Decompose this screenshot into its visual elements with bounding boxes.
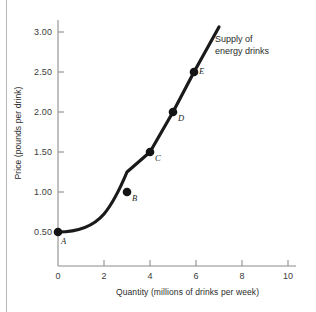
y-tick-label-0: 0.50 <box>12 227 52 237</box>
point-label-b: B <box>132 193 137 203</box>
point-label-e: E <box>199 66 204 76</box>
x-axis-title: Quantity (millions of drinks per week) <box>116 287 259 297</box>
y-axis-title: Price (pounds per drink) <box>13 68 23 198</box>
data-point-b <box>123 188 132 197</box>
x-axis-ticks <box>104 260 288 266</box>
x-tick-label-4: 8 <box>232 271 252 281</box>
point-label-d: D <box>178 113 184 123</box>
supply-curve-annotation: Supply of energy drinks <box>215 33 269 57</box>
supply-annotation-line-2: energy drinks <box>215 45 269 57</box>
y-axis-ticks <box>58 32 64 232</box>
x-tick-label-5: 10 <box>278 271 298 281</box>
x-tick-label-3: 6 <box>186 271 206 281</box>
data-point-c <box>146 148 155 157</box>
supply-curve-figure: 0.50 1.00 1.50 2.00 2.50 3.00 0 2 4 6 8 … <box>0 0 316 312</box>
point-label-a: A <box>61 236 66 246</box>
x-tick-label-1: 2 <box>94 271 114 281</box>
x-tick-label-0: 0 <box>48 271 68 281</box>
point-label-c: C <box>155 153 161 163</box>
data-point-e <box>190 68 199 77</box>
y-tick-label-5: 3.00 <box>12 27 52 37</box>
supply-annotation-line-1: Supply of <box>215 33 269 45</box>
x-tick-label-2: 4 <box>140 271 160 281</box>
data-point-a <box>54 228 63 237</box>
data-point-d <box>169 108 178 117</box>
supply-curve <box>58 27 219 232</box>
